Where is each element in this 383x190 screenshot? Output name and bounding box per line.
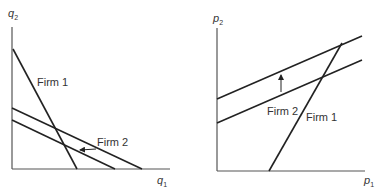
right-x-axis-label-subscript: 1 (370, 181, 374, 188)
left-x-axis-label-subscript: 1 (163, 181, 167, 188)
left-x-axis-label: q1 (157, 175, 167, 188)
right-x-axis-label: p1 (364, 175, 374, 188)
right-firm2-label: Firm 2 (267, 106, 298, 117)
right-y-axis-label-subscript: 2 (219, 19, 223, 26)
right-y-axis-label: p2 (213, 13, 223, 26)
diagram-canvas (0, 0, 383, 190)
left-firm2-label: Firm 2 (97, 137, 128, 148)
left-shift-arrow-icon (80, 149, 96, 150)
left-firm1-reaction-line (13, 49, 77, 169)
right-firm2-reaction-line-shifted (217, 36, 362, 99)
left-y-axis-label-subscript: 2 (14, 14, 18, 21)
right-firm1-label: Firm 1 (306, 112, 337, 123)
left-panel-quantity-competition (12, 27, 170, 169)
right-panel-price-competition (217, 28, 365, 171)
left-firm1-label: Firm 1 (37, 77, 68, 88)
left-y-axis-label: q2 (8, 8, 18, 21)
